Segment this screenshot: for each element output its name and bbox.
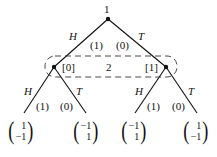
payoff-4-player2: −1 — [191, 131, 202, 142]
root-action-h-prob: (1) — [90, 40, 103, 51]
payoff-1-player2: −1 — [16, 131, 27, 142]
right-action-h-label: H — [135, 86, 143, 97]
payoff-3-player2: 1 — [134, 131, 139, 142]
left-action-h-prob: (1) — [36, 101, 49, 112]
root-action-h-label: H — [69, 31, 77, 42]
payoff-vector-1: ( 1−1 ) — [7, 118, 35, 144]
right-action-h-prob: (1) — [147, 101, 160, 112]
game-tree-diagram: 1 H (1) T (0) [0] 2 [1] H (1) T (0) H (1… — [0, 0, 217, 157]
root-action-t-prob: (0) — [116, 40, 129, 51]
payoff-vector-4: ( 1−1 ) — [182, 118, 210, 144]
payoff-1-player1: 1 — [21, 120, 26, 131]
info-set-player-label: 2 — [106, 62, 112, 73]
left-decision-node — [52, 65, 56, 69]
root-player-label: 1 — [104, 4, 110, 15]
payoff-2-player2: 1 — [86, 131, 91, 142]
right-decision-node — [164, 65, 168, 69]
left-action-t-label: T — [76, 86, 82, 97]
payoff-4-player1: 1 — [196, 120, 201, 131]
left-action-h-label: H — [24, 86, 32, 97]
belief-left: [0] — [62, 62, 75, 73]
payoff-3-player1: −1 — [129, 120, 140, 131]
belief-right: [1] — [145, 62, 158, 73]
payoff-vector-3: ( −11 ) — [120, 118, 148, 144]
payoff-vector-2: ( −11 ) — [72, 118, 100, 144]
root-node — [106, 17, 110, 21]
payoff-2-player1: −1 — [81, 120, 92, 131]
right-action-t-label: T — [188, 86, 194, 97]
left-action-t-prob: (0) — [60, 101, 73, 112]
right-action-t-prob: (0) — [172, 101, 185, 112]
root-action-t-label: T — [138, 31, 144, 42]
